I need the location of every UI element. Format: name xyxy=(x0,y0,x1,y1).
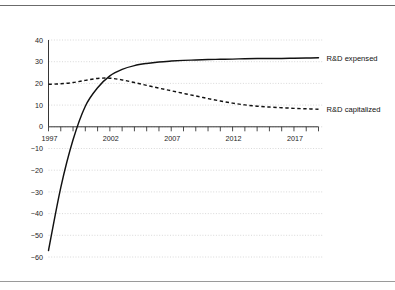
y-tick-label--10: −10 xyxy=(31,144,43,153)
legend-label-randd-capitalized: R&D capitalized xyxy=(327,105,381,114)
y-tick-label-0: 0 xyxy=(39,122,43,131)
y-tick-label-30: 30 xyxy=(35,57,43,66)
y-tick-label--50: −50 xyxy=(31,231,43,240)
y-tick-label-20: 20 xyxy=(35,79,43,88)
x-tick-label-2007: 2007 xyxy=(164,134,180,143)
y-tick-labels-group: 403020100−10−20−30−40−50−60 xyxy=(31,36,43,262)
figure-container: 403020100−10−20−30−40−50−60 199720022007… xyxy=(0,0,395,290)
data-series-group xyxy=(49,58,319,251)
y-tick-label--20: −20 xyxy=(31,166,43,175)
gridlines-group xyxy=(49,40,323,257)
legend-label-randd-expensed: R&D expensed xyxy=(327,54,378,63)
y-tick-label--30: −30 xyxy=(31,188,43,197)
series-line-randd-capitalized xyxy=(49,78,319,109)
y-tick-label--60: −60 xyxy=(31,253,43,262)
series-line-randd-expensed xyxy=(49,58,319,251)
x-tick-label-1997: 1997 xyxy=(42,134,58,143)
x-tick-label-2012: 2012 xyxy=(226,134,242,143)
legend-group: R&D expensedR&D capitalized xyxy=(327,54,381,114)
x-tickmarks-group xyxy=(49,127,319,132)
y-tick-label-40: 40 xyxy=(35,36,43,45)
y-tick-label-10: 10 xyxy=(35,101,43,110)
y-tick-label--40: −40 xyxy=(31,209,43,218)
x-tick-labels-group: 19972002200720122017 xyxy=(42,134,303,143)
x-tick-label-2017: 2017 xyxy=(287,134,303,143)
line-chart: 403020100−10−20−30−40−50−60 199720022007… xyxy=(0,0,395,290)
x-tick-label-2002: 2002 xyxy=(103,134,119,143)
